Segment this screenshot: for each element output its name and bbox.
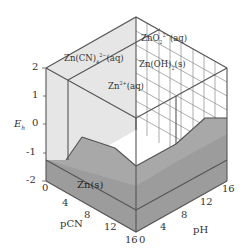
species-label-zn-cn4: Zn(CN)42−(aq)	[64, 52, 124, 65]
e-axis-tick-m1: -1	[26, 146, 36, 157]
pcn-tick-0: 0	[42, 182, 48, 193]
pourbaix-3d-diagram: 2 1 0 -1 -2 Eh 0 4 8 12 16 pCN 0 4 8 12 …	[0, 0, 242, 248]
pcn-tick-12: 12	[104, 221, 117, 232]
e-axis-tick-0: 0	[32, 117, 38, 128]
ph-tick-8: 8	[181, 209, 187, 220]
pcn-tick-8: 8	[84, 209, 90, 220]
e-axis-tick-2: 2	[32, 61, 38, 72]
species-label-zn-oh2: Zn(OH)2(s)	[139, 59, 186, 71]
e-axis	[42, 68, 46, 181]
ph-tick-4: 4	[160, 221, 166, 232]
e-axis-tick-m2: -2	[26, 174, 36, 185]
pcn-tick-4: 4	[62, 197, 68, 208]
ph-tick-16: 16	[222, 183, 235, 194]
species-label-zno2: ZnO22−(aq)	[141, 32, 187, 45]
species-label-zn2: Zn2+(aq)	[108, 80, 144, 91]
ph-tick-0: 0	[139, 234, 145, 245]
e-axis-tick-1: 1	[32, 89, 38, 100]
pcn-axis-label: pCN	[60, 218, 83, 229]
pcn-tick-16: 16	[125, 234, 138, 245]
ph-axis-label: pH	[193, 224, 208, 235]
e-axis-label: Eh	[14, 118, 25, 131]
species-label-zn-s: Zn(s)	[77, 179, 103, 190]
ph-tick-12: 12	[200, 196, 213, 207]
